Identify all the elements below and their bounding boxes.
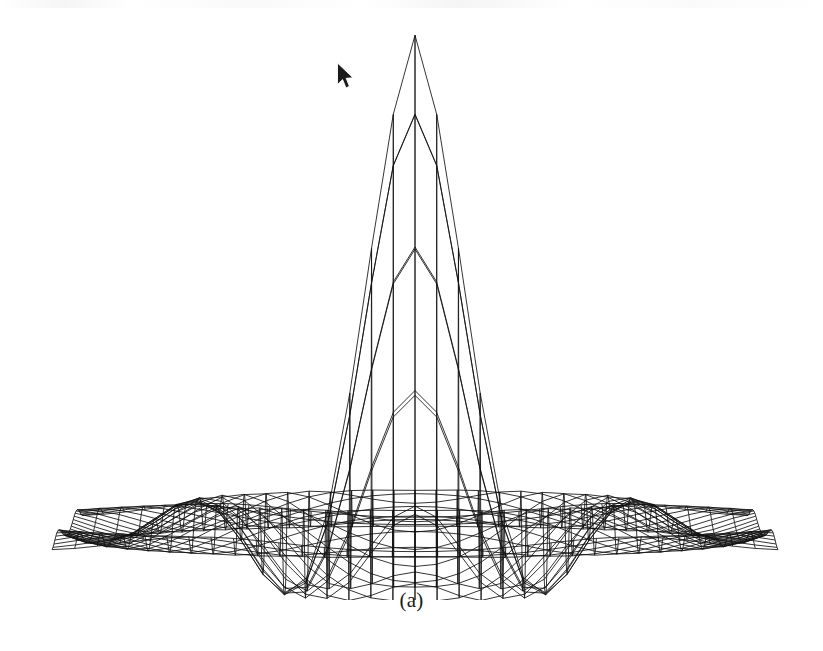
mesh-line	[392, 114, 394, 600]
mesh-line	[436, 114, 438, 600]
wireframe-mesh-surface-plot	[0, 0, 823, 600]
figure-caption-row: (a)	[0, 588, 823, 613]
figure-container: (a)	[0, 0, 823, 651]
mesh-column-lines	[52, 35, 778, 600]
figure-caption: (a)	[400, 588, 424, 612]
